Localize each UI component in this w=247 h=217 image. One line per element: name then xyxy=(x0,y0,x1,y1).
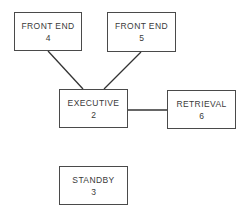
node-number: 4 xyxy=(46,32,51,44)
node-label: FRONT END xyxy=(115,20,168,32)
node-front-end-5: FRONT END 5 xyxy=(107,12,176,52)
node-label: RETRIEVAL xyxy=(176,98,226,110)
edge-frontend4-executive xyxy=(48,51,83,89)
node-number: 6 xyxy=(199,110,204,122)
node-number: 5 xyxy=(139,32,144,44)
node-front-end-4: FRONT END 4 xyxy=(14,12,82,51)
edge-frontend5-executive xyxy=(104,52,141,89)
node-label: STANDBY xyxy=(72,174,114,186)
node-executive-2: EXECUTIVE 2 xyxy=(59,89,128,128)
node-standby-3: STANDBY 3 xyxy=(59,166,128,205)
node-retrieval-6: RETRIEVAL 6 xyxy=(167,90,236,129)
node-number: 3 xyxy=(91,186,96,198)
node-label: EXECUTIVE xyxy=(68,97,120,109)
node-label: FRONT END xyxy=(21,20,74,32)
node-number: 2 xyxy=(91,109,96,121)
